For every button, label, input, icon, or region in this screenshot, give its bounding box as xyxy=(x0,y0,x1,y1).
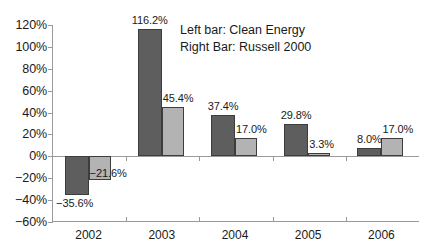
bar-2003-clean-energy xyxy=(138,29,162,156)
y-axis-tick-mark xyxy=(48,200,53,201)
bar-2005-clean-energy xyxy=(284,124,308,157)
y-axis-tick-label: −40% xyxy=(15,193,47,207)
value-label: 29.8% xyxy=(281,109,312,121)
x-axis-tick-mark xyxy=(199,156,200,161)
value-label: −21.6% xyxy=(90,167,127,179)
y-axis-tick-label: 120% xyxy=(15,18,47,32)
y-axis-tick-label: 60% xyxy=(22,84,47,98)
y-axis-tick-mark xyxy=(48,91,53,92)
y-axis: 120%100%80%60%40%20%0%−20%−40%−60% xyxy=(0,0,47,247)
bar-2004-clean-energy xyxy=(211,115,235,156)
x-axis-tick-mark xyxy=(273,217,274,222)
x-axis-tick-mark xyxy=(126,217,127,222)
value-label: 3.3% xyxy=(309,138,334,150)
value-label: 17.0% xyxy=(236,123,267,135)
x-axis-category-label: 2005 xyxy=(295,228,322,242)
x-axis-category-label: 2006 xyxy=(368,228,395,242)
bar-2002-clean-energy xyxy=(65,156,89,195)
x-axis-tick-mark xyxy=(273,156,274,161)
y-axis-tick-label: −20% xyxy=(15,171,47,185)
y-axis-tick-label: 20% xyxy=(22,127,47,141)
y-axis-tick-mark xyxy=(48,178,53,179)
y-axis-tick-label: 40% xyxy=(22,106,47,120)
y-axis-tick-mark xyxy=(48,47,53,48)
legend-line-left-bar: Left bar: Clean Energy xyxy=(180,22,311,39)
value-label: 116.2% xyxy=(132,14,168,26)
y-axis-tick-mark xyxy=(48,156,53,157)
value-label: −35.6% xyxy=(56,197,93,209)
x-axis-tick-mark xyxy=(199,217,200,222)
x-axis-tick-mark xyxy=(126,156,127,161)
bar-chart: 120%100%80%60%40%20%0%−20%−40%−60% −35.6… xyxy=(0,0,431,247)
y-axis-tick-label: 0% xyxy=(29,149,47,163)
bar-2006-clean-energy xyxy=(357,148,381,157)
y-axis-tick-mark xyxy=(48,222,53,223)
y-axis-tick-mark xyxy=(48,69,53,70)
legend-line-right-bar: Right Bar: Russell 2000 xyxy=(180,39,311,56)
bar-2005-russell-2000 xyxy=(308,153,330,157)
x-axis-tick-mark xyxy=(346,217,347,222)
x-axis-line xyxy=(53,221,419,222)
bar-2006-russell-2000 xyxy=(381,138,403,157)
value-label: 8.0% xyxy=(357,133,382,145)
y-axis-tick-label: 100% xyxy=(15,40,47,54)
value-label: 45.4% xyxy=(163,92,194,104)
bar-2004-russell-2000 xyxy=(235,138,257,157)
legend: Left bar: Clean Energy Right Bar: Russel… xyxy=(180,22,311,56)
bar-2003-russell-2000 xyxy=(162,107,184,157)
value-label: 17.0% xyxy=(382,123,413,135)
x-axis-category-label: 2002 xyxy=(75,228,102,242)
y-axis-tick-mark xyxy=(48,113,53,114)
y-axis-tick-label: 80% xyxy=(22,62,47,76)
value-label: 37.4% xyxy=(208,100,239,112)
y-axis-tick-label: −60% xyxy=(15,215,47,229)
y-axis-tick-mark xyxy=(48,25,53,26)
y-axis-tick-mark xyxy=(48,134,53,135)
x-axis-category-label: 2003 xyxy=(148,228,175,242)
x-axis-category-label: 2004 xyxy=(222,228,249,242)
x-axis-tick-mark xyxy=(346,156,347,161)
